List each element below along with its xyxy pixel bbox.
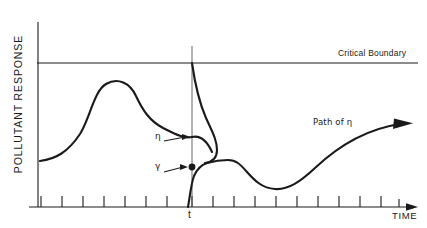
pollutant-response-figure: POLLUTANT RESPONSE Critical Boundary Pat… <box>0 0 427 228</box>
x-axis-ticks <box>41 196 399 207</box>
eta-label: η <box>155 131 161 141</box>
gamma-point-marker <box>189 164 196 171</box>
path-of-eta-curve <box>188 124 400 207</box>
y-axis-label: POLLUTANT RESPONSE <box>12 19 24 189</box>
gamma-label: γ <box>155 161 160 171</box>
chart-canvas <box>0 0 427 228</box>
path-of-eta-arrow-icon <box>393 119 413 130</box>
x-axis-label: TIME <box>392 210 417 221</box>
historical-response-curve <box>40 81 212 161</box>
gamma-pointer-arrow-icon <box>164 164 188 172</box>
decision-time-tick-label: t <box>188 209 191 220</box>
path-of-eta-label: Path of η <box>313 117 352 127</box>
critical-boundary-label: Critical Boundary <box>338 48 406 58</box>
upper-branch-curve <box>192 63 217 163</box>
